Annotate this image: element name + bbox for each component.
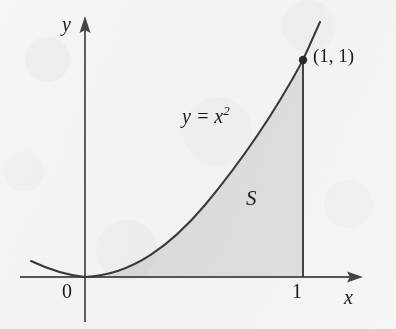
point-marker-1-1	[299, 56, 307, 64]
curve-equation-exponent: 2	[223, 103, 230, 118]
y-axis-label: y	[62, 14, 71, 34]
x-axis-label: x	[344, 287, 353, 307]
figure-canvas: y x 0 1 y = x2 S (1, 1)	[0, 0, 396, 329]
x-tick-label-1: 1	[292, 281, 302, 301]
region-label-S: S	[246, 188, 257, 209]
shaded-region-S	[85, 60, 303, 277]
curve-equation-base: y = x	[182, 105, 223, 127]
origin-label: 0	[62, 281, 72, 301]
point-label-1-1: (1, 1)	[313, 46, 354, 65]
curve-equation-label: y = x2	[182, 104, 230, 126]
